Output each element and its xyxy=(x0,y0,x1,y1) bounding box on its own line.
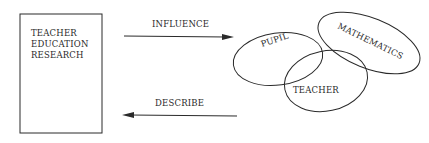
box-line-3: RESEARCH xyxy=(31,50,84,60)
arrow-left-icon xyxy=(122,112,134,118)
research-box: TEACHER EDUCATION RESEARCH xyxy=(20,14,102,133)
arrow-right-icon xyxy=(222,34,234,40)
box-line-2: EDUCATION xyxy=(31,39,89,49)
influence-arrow: INFLUENCE xyxy=(124,19,234,40)
venn-diagram: PUPIL MATHEMATICS TEACHER xyxy=(230,0,429,119)
teacher-ellipse xyxy=(279,43,374,119)
diagram-canvas: TEACHER EDUCATION RESEARCH INFLUENCE DES… xyxy=(0,0,429,143)
influence-label: INFLUENCE xyxy=(152,19,209,29)
teacher-label: TEACHER xyxy=(293,85,339,95)
describe-arrow-shaft xyxy=(130,115,237,116)
describe-arrow: DESCRIBE xyxy=(122,98,237,118)
mathematics-label: MATHEMATICS xyxy=(336,21,405,61)
box-line-1: TEACHER xyxy=(31,28,77,38)
influence-arrow-shaft xyxy=(124,36,226,37)
describe-label: DESCRIBE xyxy=(155,98,204,108)
